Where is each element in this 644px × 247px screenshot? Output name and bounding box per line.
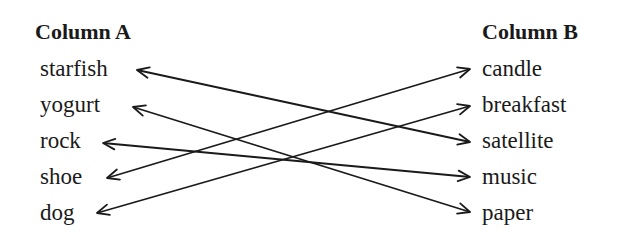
connection-line [97, 106, 470, 213]
connection-yogurt-paper [133, 105, 470, 213]
connection-line [107, 69, 470, 178]
connection-dog-breakfast [97, 104, 470, 215]
connection-arrows [0, 0, 644, 247]
connection-shoe-candle [107, 67, 470, 179]
connection-line [103, 143, 470, 177]
connection-line [133, 107, 470, 212]
connection-line [137, 70, 470, 142]
connection-starfish-satellite [137, 67, 470, 144]
connection-rock-music [103, 139, 470, 181]
